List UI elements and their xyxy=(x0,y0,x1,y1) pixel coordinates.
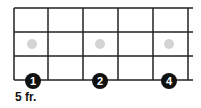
inlay-marker xyxy=(95,39,105,49)
finger-number: 2 xyxy=(97,75,103,87)
fret-position-label: 5 fr. xyxy=(15,91,36,103)
inlay-marker xyxy=(164,39,174,49)
finger-number: 4 xyxy=(166,75,173,87)
finger-number: 1 xyxy=(30,75,36,87)
inlay-marker xyxy=(27,39,37,49)
